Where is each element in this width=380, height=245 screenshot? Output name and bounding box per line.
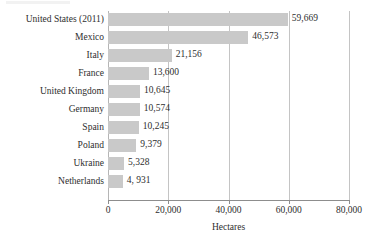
bar bbox=[108, 103, 140, 116]
x-axis-tick-label: 0 bbox=[106, 205, 111, 215]
bar-row: 21,156 bbox=[108, 49, 349, 62]
bar-row: 5,328 bbox=[108, 157, 349, 170]
bar-value-label: 10,574 bbox=[144, 102, 170, 115]
category-label: France bbox=[0, 67, 104, 80]
category-label: Poland bbox=[0, 139, 104, 152]
x-axis-tick bbox=[349, 200, 350, 204]
category-label: Ukraine bbox=[0, 157, 104, 170]
bar bbox=[108, 13, 288, 26]
x-axis-title: Hectares bbox=[108, 222, 349, 232]
x-axis-tick bbox=[229, 200, 230, 204]
category-label: Germany bbox=[0, 103, 104, 116]
bar-row: 10,574 bbox=[108, 103, 349, 116]
category-label: United Kingdom bbox=[0, 85, 104, 98]
bar bbox=[108, 157, 124, 170]
x-axis-tick-label: 80,000 bbox=[336, 205, 362, 215]
bar bbox=[108, 49, 172, 62]
bar bbox=[108, 139, 136, 152]
bar bbox=[108, 85, 140, 98]
bar-value-label: 59,669 bbox=[292, 12, 318, 25]
bar-row: 10,645 bbox=[108, 85, 349, 98]
bar-row: 10,245 bbox=[108, 121, 349, 134]
x-axis-tick bbox=[289, 200, 290, 204]
x-axis-tick-label: 60,000 bbox=[276, 205, 302, 215]
bar-value-label: 46,573 bbox=[252, 30, 278, 43]
category-label: Mexico bbox=[0, 31, 104, 44]
bar-row: 46,573 bbox=[108, 31, 349, 44]
bar-value-label: 10,645 bbox=[144, 84, 170, 97]
bar bbox=[108, 121, 139, 134]
x-axis-tick bbox=[168, 200, 169, 204]
bar bbox=[108, 67, 149, 80]
category-axis-labels: United States (2011)MexicoItalyFranceUni… bbox=[0, 11, 104, 200]
bar bbox=[108, 31, 248, 44]
category-label: Netherlands bbox=[0, 175, 104, 188]
x-axis-tick-label: 40,000 bbox=[215, 205, 241, 215]
bar-value-label: 21,156 bbox=[176, 48, 202, 61]
category-label: Spain bbox=[0, 121, 104, 134]
bar-row: 13,600 bbox=[108, 67, 349, 80]
plot-area: 59,66946,57321,15613,60010,64510,57410,2… bbox=[108, 11, 349, 200]
x-axis-tick bbox=[108, 200, 109, 204]
bar-value-label: 5,328 bbox=[128, 156, 149, 169]
bar-value-label: 10,245 bbox=[143, 120, 169, 133]
bar-chart: 59,66946,57321,15613,60010,64510,57410,2… bbox=[0, 0, 380, 245]
gridline bbox=[349, 11, 350, 200]
bar-value-label: 13,600 bbox=[153, 66, 179, 79]
bar-row: 9,379 bbox=[108, 139, 349, 152]
bar-value-label: 9,379 bbox=[140, 138, 161, 151]
x-axis-tick-label: 20,000 bbox=[155, 205, 181, 215]
category-label: Italy bbox=[0, 49, 104, 62]
bar bbox=[108, 175, 123, 188]
bar-row: 4, 931 bbox=[108, 175, 349, 188]
bar-value-label: 4, 931 bbox=[127, 174, 151, 187]
scan-artifact bbox=[6, 1, 70, 4]
category-label: United States (2011) bbox=[0, 13, 104, 26]
bar-row: 59,669 bbox=[108, 13, 349, 26]
